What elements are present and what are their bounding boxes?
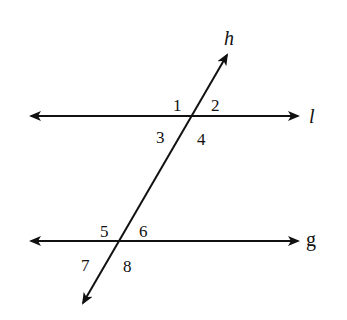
angle-label-2: 2 [211,96,220,115]
angle-label-3: 3 [156,128,165,147]
angle-label-4: 4 [197,130,206,149]
label-h: h [224,27,234,49]
angle-label-6: 6 [139,222,148,241]
angle-label-1: 1 [173,96,182,115]
angle-label-7: 7 [81,256,90,275]
angle-label-8: 8 [123,257,132,276]
transversal-diagram: h l g 1 2 3 4 5 6 7 8 [0,0,347,320]
transversal-h [83,55,227,303]
label-g: g [306,228,316,251]
angle-label-5: 5 [100,222,109,241]
label-l: l [309,105,315,127]
